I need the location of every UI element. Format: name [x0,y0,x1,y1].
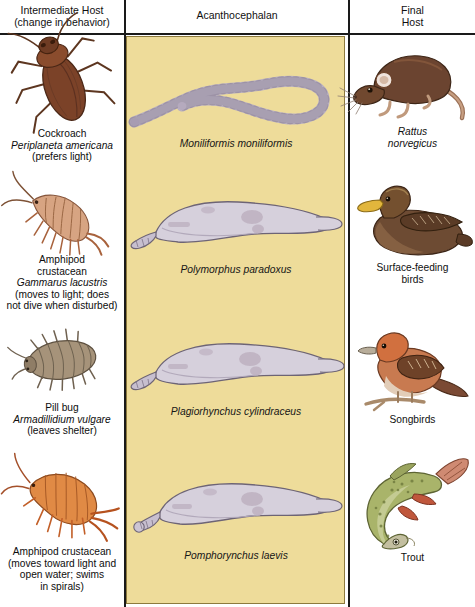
intermediate-host-amphipod: Amphipod crustacean (moves toward light … [0,454,124,592]
trout-label: Trout [350,552,475,564]
moniliformis-worm-illustration [126,44,346,132]
duck-caption: Surface-feeding birds [350,262,475,285]
gammarus-common-name-line2: crustacean [0,266,124,278]
cockroach-caption: Cockroach Periplaneta americana (prefers… [0,128,124,163]
pillbug-caption: Pill bug Armadillidium vulgare (leaves s… [0,402,124,437]
life-cycle-row-4: Amphipod crustacean (moves toward light … [0,450,475,607]
parasite-polymorphus: Polymorphus paradoxus [126,188,346,275]
duck-label-line1: Surface-feeding [350,262,475,274]
songbird-caption: Songbirds [350,414,475,426]
cockroach-species: Periplaneta americana [0,140,124,152]
pomphorynchus-species-label: Pomphorynchus laevis [126,550,346,561]
header-final-host: Final Host [350,4,475,28]
life-cycle-row-3: Pill bug Armadillidium vulgare (leaves s… [0,324,475,450]
header-final-host-line2: Host [350,16,475,28]
rat-label-line1: Rattus [350,126,475,138]
rat-label-line2: norvegicus [350,138,475,150]
duck-label-line2: birds [350,274,475,286]
header-final-host-line1: Final [350,4,475,16]
final-host-duck: Surface-feeding birds [350,178,475,285]
acanthocephalan-life-cycle-figure: Intermediate Host (change in behavior) A… [0,0,475,607]
amphipod-behavior-line1: (moves toward light and [0,558,124,570]
trout-caption: Trout [350,552,475,564]
cockroach-behavior: (prefers light) [0,151,124,163]
amphipod-common-name: Amphipod crustacean [0,546,124,558]
pillbug-common-name: Pill bug [0,402,124,414]
amphipod-gammarus-illustration [0,182,124,252]
amphipod-behavior-line2: open water; swims [0,569,124,581]
life-cycle-row-1: Cockroach Periplaneta americana (prefers… [0,36,475,178]
rat-caption: Rattus norvegicus [350,126,475,149]
pomphorynchus-worm-illustration [126,472,346,538]
header-intermediate-host: Intermediate Host (change in behavior) [0,4,124,28]
intermediate-host-pillbug: Pill bug Armadillidium vulgare (leaves s… [0,328,124,437]
final-host-rat: Rattus norvegicus [350,38,475,149]
trout-illustration [350,450,475,550]
gammarus-behavior-line2: not dive when disturbed) [0,300,124,312]
parasite-pomphorynchus: Pomphorynchus laevis [126,472,346,561]
header-divider-left [124,0,126,33]
gammarus-species: Gammarus lacustris [0,277,124,289]
moniliformis-species-label: Moniliformis moniliformis [126,138,346,149]
cockroach-illustration [0,36,124,128]
intermediate-host-cockroach: Cockroach Periplaneta americana (prefers… [0,36,124,163]
life-cycle-row-2: Amphipod crustacean Gammarus lacustris (… [0,178,475,324]
gammarus-behavior-line1: (moves to light; does [0,289,124,301]
amphipod-behavior-line3: in spirals) [0,581,124,593]
amphipod-illustration [0,454,124,544]
header-acanthocephalan: Acanthocephalan [126,9,348,21]
songbird-illustration [350,324,475,412]
header-underline [0,33,475,35]
gammarus-caption: Amphipod crustacean Gammarus lacustris (… [0,254,124,312]
parasite-plagiorhynchus: Plagiorhynchus cylindraceus [126,332,346,417]
songbird-label: Songbirds [350,414,475,426]
rat-illustration [350,38,475,122]
pillbug-illustration [0,328,124,394]
duck-illustration [350,178,475,260]
pillbug-species: Armadillidium vulgare [0,414,124,426]
polymorphus-species-label: Polymorphus paradoxus [126,264,346,275]
intermediate-host-gammarus: Amphipod crustacean Gammarus lacustris (… [0,182,124,312]
plagiorhynchus-worm-illustration [126,332,346,398]
polymorphus-worm-illustration [126,188,346,258]
gammarus-common-name-line1: Amphipod [0,254,124,266]
parasite-moniliformis: Moniliformis moniliformis [126,44,346,149]
final-host-trout: Trout [350,450,475,564]
final-host-songbird: Songbirds [350,324,475,426]
header-intermediate-host-line1: Intermediate Host [0,4,124,16]
pillbug-behavior: (leaves shelter) [0,425,124,437]
header-divider-right [348,0,350,33]
amphipod-caption: Amphipod crustacean (moves toward light … [0,546,124,592]
cockroach-common-name: Cockroach [0,128,124,140]
plagiorhynchus-species-label: Plagiorhynchus cylindraceus [126,406,346,417]
